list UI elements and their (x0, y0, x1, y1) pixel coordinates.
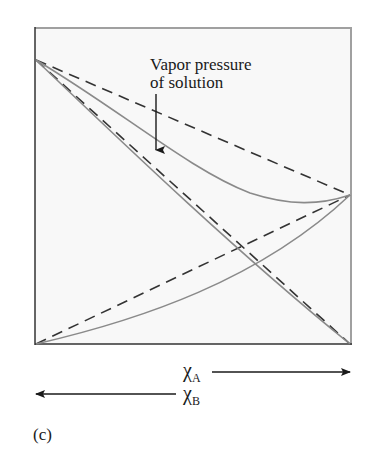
chi-b-symbol: χ (182, 382, 192, 405)
chi-a-symbol: χ (182, 359, 192, 382)
annotation-line2: of solution (150, 73, 224, 92)
chi-b-subscript: B (192, 394, 200, 408)
vapor-pressure-diagram: Vapor pressure of solution χA χB (c) (0, 0, 368, 461)
chi-b-label: χB (182, 382, 200, 408)
panel-label: (c) (33, 425, 52, 444)
chi-a-subscript: A (192, 371, 201, 385)
x-axis-labels: χA χB (36, 359, 350, 408)
annotation-line1: Vapor pressure (150, 55, 252, 74)
